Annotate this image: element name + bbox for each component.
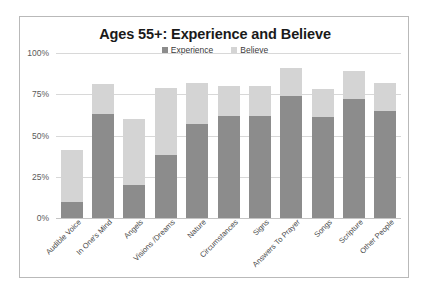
x-axis-tick-label: Songs [313,219,335,241]
plot-area [56,53,401,218]
bar-segment-experience[interactable] [312,117,334,218]
y-axis-tick-label: 50% [32,131,49,141]
x-axis-tick-label: Signs [252,219,272,239]
x-axis-tick-text: Scripture [337,218,365,246]
x-axis-tick-label: Nature [187,219,209,241]
bar-group[interactable] [280,53,302,218]
bar-segment-experience[interactable] [280,96,302,218]
bar-group[interactable] [61,53,83,218]
bar-segment-believe[interactable] [123,119,145,185]
bar-segment-believe[interactable] [343,71,365,99]
bar-segment-believe[interactable] [374,83,396,111]
bar-segment-believe[interactable] [312,89,334,117]
bar-group[interactable] [123,53,145,218]
x-axis-tick-text: Angels [123,218,146,241]
bar-group[interactable] [218,53,240,218]
chart-title: Ages 55+: Experience and Believe [20,26,410,42]
bar-segment-experience[interactable] [218,116,240,218]
bar-segment-believe[interactable] [186,83,208,124]
bar-segment-believe[interactable] [249,86,271,116]
bar-group[interactable] [186,53,208,218]
x-axis-tick-label: Angels [124,219,147,242]
chart-container: Ages 55+: Experience and Believe Experie… [19,16,409,278]
x-axis-tick-label: Scripture [338,219,366,247]
bar-segment-experience[interactable] [61,202,83,219]
x-axis-tick-text: Songs [312,218,334,240]
y-axis-tick-label: 25% [32,172,49,182]
bar-segment-experience[interactable] [155,155,177,218]
bar-segment-experience[interactable] [374,111,396,218]
bar-group[interactable] [249,53,271,218]
bar-group[interactable] [343,53,365,218]
x-axis: Audible VoiceIn One's MindAngelsVisions … [56,219,401,289]
bars-layer [56,53,401,218]
y-axis-tick-label: 75% [32,89,49,99]
bar-segment-believe[interactable] [280,68,302,96]
y-axis: 0%25%50%75%100% [20,53,53,218]
bar-group[interactable] [312,53,334,218]
bar-segment-experience[interactable] [123,185,145,218]
bar-segment-believe[interactable] [61,150,83,201]
x-axis-tick-text: Signs [251,218,271,238]
bar-segment-experience[interactable] [249,116,271,218]
bar-group[interactable] [155,53,177,218]
bar-group[interactable] [92,53,114,218]
y-axis-tick-label: 100% [27,48,49,58]
bar-segment-experience[interactable] [186,124,208,218]
bar-segment-experience[interactable] [343,99,365,218]
bar-segment-believe[interactable] [155,88,177,156]
y-axis-tick-label: 0% [37,213,49,223]
bar-segment-believe[interactable] [92,84,114,114]
bar-segment-believe[interactable] [218,86,240,116]
x-axis-tick-text: Nature [186,218,208,240]
bar-group[interactable] [374,53,396,218]
bar-segment-experience[interactable] [92,114,114,218]
